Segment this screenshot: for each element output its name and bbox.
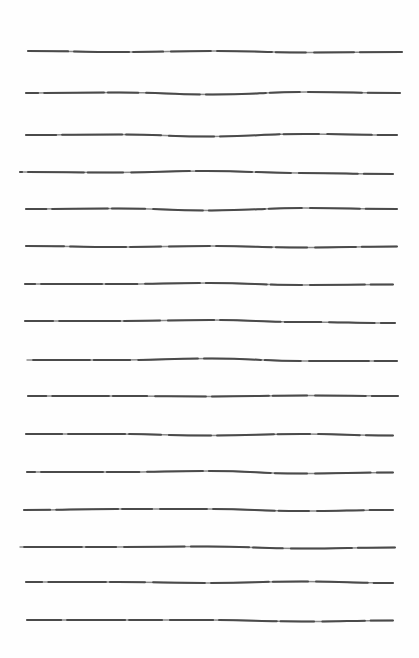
ruled-line bbox=[27, 620, 393, 622]
ruled-line bbox=[25, 283, 393, 285]
ruled-line bbox=[26, 434, 393, 436]
lined-paper bbox=[0, 0, 419, 658]
ruled-line bbox=[26, 134, 397, 137]
ruled-line bbox=[27, 471, 393, 474]
ruled-line bbox=[27, 359, 397, 362]
ruled-line bbox=[20, 547, 395, 549]
ruled-line bbox=[25, 320, 395, 323]
ruled-line bbox=[26, 208, 397, 211]
ruled-line bbox=[20, 171, 393, 174]
ruled-line bbox=[28, 396, 398, 397]
ruled-lines bbox=[0, 0, 419, 658]
ruled-line bbox=[26, 92, 400, 95]
